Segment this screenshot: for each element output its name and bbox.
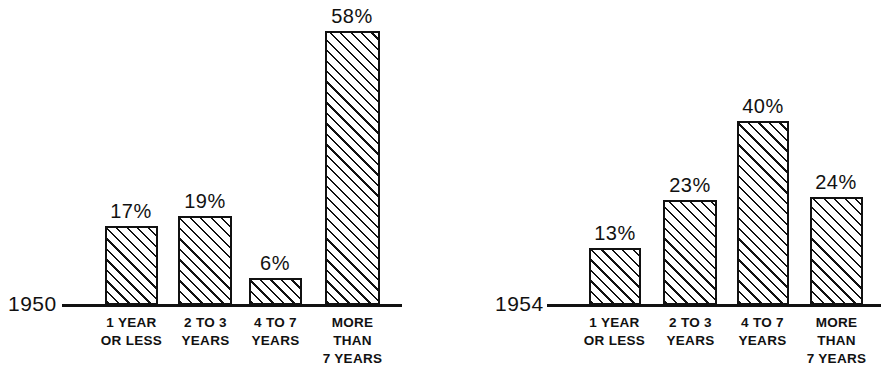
bar-1950-4-to-7-years (249, 278, 302, 305)
chart-panel-1954: 1954 13% 1 YEAR OR LESS 23% 2 TO 3 YEARS… (440, 0, 895, 382)
bar-1950-more-than-7-years (325, 31, 380, 305)
category-label-line: 7 YEARS (302, 350, 403, 368)
bar-value-label: 17% (101, 201, 161, 221)
bar-1950-2-to-3-years (178, 216, 232, 305)
bar-value-label: 40% (733, 96, 793, 116)
group-label-1950: 1950 (8, 293, 57, 314)
bar-value-label: 58% (322, 6, 382, 26)
category-label-more-than-7-years: MORE THAN 7 YEARS (786, 314, 887, 368)
bar-value-label: 23% (660, 175, 720, 195)
bar-1954-4-to-7-years (737, 121, 789, 305)
category-label-line: THAN (302, 332, 403, 350)
category-label-line: MORE (302, 314, 403, 332)
bar-value-label: 13% (585, 223, 645, 243)
bar-1954-1-year-or-less (589, 248, 641, 305)
category-label-line: MORE (786, 314, 887, 332)
bar-value-label: 19% (175, 191, 235, 211)
bar-value-label: 6% (245, 253, 305, 273)
group-label-1954: 1954 (495, 293, 544, 314)
category-label-line: THAN (786, 332, 887, 350)
chart-panel-1950: 1950 17% 1 YEAR OR LESS 19% 2 TO 3 YEARS… (0, 0, 440, 382)
bar-1954-2-to-3-years (663, 200, 717, 305)
category-label-line: 7 YEARS (786, 350, 887, 368)
bar-1950-1-year-or-less (105, 226, 158, 305)
bar-1954-more-than-7-years (810, 197, 863, 305)
chart-figure: 1950 17% 1 YEAR OR LESS 19% 2 TO 3 YEARS… (0, 0, 895, 382)
category-label-more-than-7-years: MORE THAN 7 YEARS (302, 314, 403, 368)
bar-value-label: 24% (806, 172, 866, 192)
